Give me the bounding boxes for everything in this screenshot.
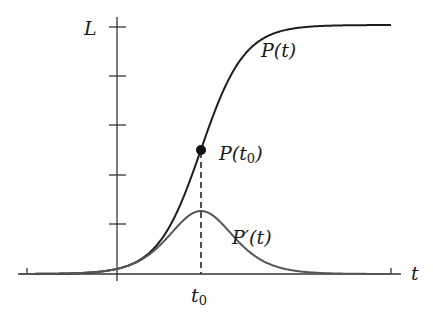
inflection-point-marker [196,145,206,155]
t0-sub: 0 [199,293,207,308]
derivative-curve-p-prime [20,211,391,274]
curve-label-p: P(t) [260,39,296,61]
point-label-sub: 0 [247,151,255,166]
logistic-growth-figure: L t P(t) P(t0) P′(t) t0 [0,0,433,320]
x-tick-label-t0: t0 [191,284,207,308]
point-label-p-t0: P(t0) [218,142,263,166]
y-axis-label-L: L [83,17,97,39]
point-label-close: ) [254,142,262,164]
point-label-main: P(t [218,142,247,164]
curve-label-p-prime: P′(t) [231,226,272,248]
x-axis-label-t: t [411,262,419,284]
